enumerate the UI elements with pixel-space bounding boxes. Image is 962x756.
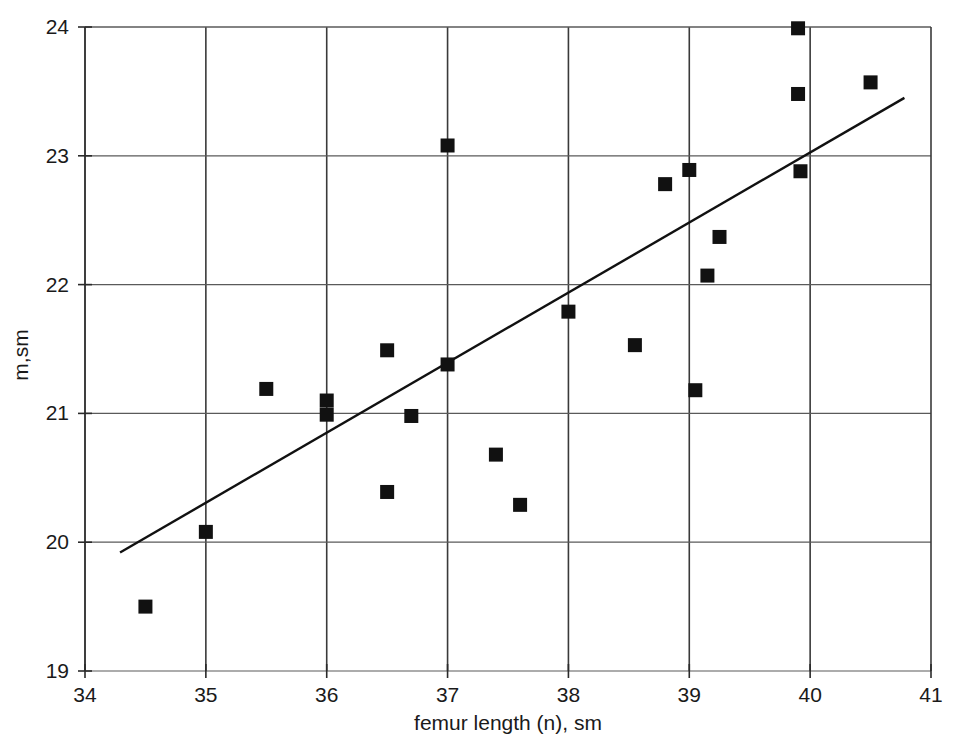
data-point-marker bbox=[513, 498, 527, 512]
x-tick-label: 37 bbox=[436, 683, 459, 706]
data-point-marker bbox=[658, 177, 672, 191]
chart-canvas: 1920212223243435363738394041 femur lengt… bbox=[0, 0, 962, 756]
x-axis-label: femur length (n), sm bbox=[414, 711, 602, 734]
data-point-marker bbox=[441, 357, 455, 371]
data-point-marker bbox=[864, 75, 878, 89]
grid-lines bbox=[85, 27, 931, 671]
x-tick-label: 40 bbox=[798, 683, 821, 706]
x-tick-label: 35 bbox=[194, 683, 217, 706]
data-points bbox=[138, 21, 877, 613]
x-tick-label: 34 bbox=[73, 683, 97, 706]
scatter-plot-figure: 1920212223243435363738394041 femur lengt… bbox=[0, 0, 962, 756]
x-tick-label: 38 bbox=[557, 683, 580, 706]
data-point-marker bbox=[791, 87, 805, 101]
data-point-marker bbox=[688, 383, 702, 397]
data-point-marker bbox=[793, 164, 807, 178]
y-axis-label: m,sm bbox=[9, 329, 32, 380]
y-tick-label: 22 bbox=[46, 273, 69, 296]
data-point-marker bbox=[489, 448, 503, 462]
data-point-marker bbox=[682, 163, 696, 177]
data-point-marker bbox=[404, 409, 418, 423]
y-tick-label: 20 bbox=[46, 530, 69, 553]
x-tick-label: 39 bbox=[678, 683, 701, 706]
y-tick-label: 23 bbox=[46, 144, 69, 167]
data-point-marker bbox=[320, 394, 334, 408]
data-point-marker bbox=[380, 485, 394, 499]
data-point-marker bbox=[713, 230, 727, 244]
tick-labels: 1920212223243435363738394041 bbox=[46, 15, 943, 706]
x-tick-label: 36 bbox=[315, 683, 338, 706]
data-point-marker bbox=[441, 138, 455, 152]
regression-line bbox=[120, 98, 904, 553]
y-tick-label: 21 bbox=[46, 401, 69, 424]
data-point-marker bbox=[700, 269, 714, 283]
data-point-marker bbox=[259, 382, 273, 396]
plot-frame bbox=[85, 27, 931, 671]
data-point-marker bbox=[138, 600, 152, 614]
x-tick-label: 41 bbox=[919, 683, 942, 706]
data-point-marker bbox=[628, 338, 642, 352]
data-point-marker bbox=[791, 21, 805, 35]
data-point-marker bbox=[380, 343, 394, 357]
data-point-marker bbox=[561, 305, 575, 319]
trendline bbox=[120, 98, 904, 553]
y-tick-label: 24 bbox=[46, 15, 70, 38]
data-point-marker bbox=[320, 408, 334, 422]
y-tick-label: 19 bbox=[46, 659, 69, 682]
data-point-marker bbox=[199, 525, 213, 539]
